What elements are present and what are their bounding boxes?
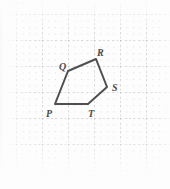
geometry-figure: 4.21 PQRST	[0, 0, 170, 189]
vertex-label-t: T	[88, 109, 94, 119]
vertex-label-q: Q	[59, 62, 66, 72]
vertex-label-s: S	[112, 83, 118, 93]
pentagon-pqrst	[0, 0, 170, 189]
vertex-label-p: P	[46, 109, 52, 119]
vertex-label-r: R	[97, 48, 104, 58]
